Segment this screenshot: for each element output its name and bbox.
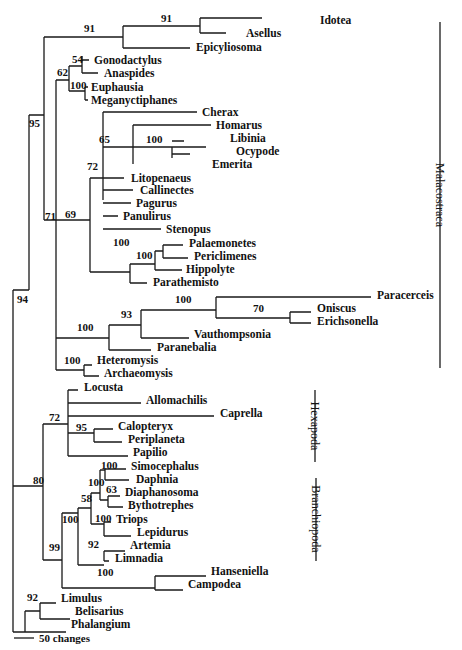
taxon-label: Callinectes bbox=[140, 184, 194, 196]
bootstrap-value: 70 bbox=[253, 302, 265, 314]
taxon-label: Meganyctiphanes bbox=[91, 94, 178, 107]
taxon-label: Lepidurus bbox=[137, 526, 189, 539]
taxon-label: Calopteryx bbox=[118, 420, 173, 433]
taxon-label: Paracerceis bbox=[377, 289, 434, 301]
taxon-labels: IdoteaAsellusEpicyliosomaGonodactylusAna… bbox=[61, 14, 434, 631]
tree-branch bbox=[56, 80, 69, 220]
taxon-label: Periplaneta bbox=[128, 433, 185, 446]
scale-bar: 50 changes bbox=[14, 632, 91, 644]
taxon-label: Diaphanosoma bbox=[125, 486, 199, 499]
bootstrap-value: 100 bbox=[77, 321, 94, 333]
tree-branch bbox=[62, 576, 206, 590]
tree-branch bbox=[13, 115, 29, 290]
bootstrap-value: 100 bbox=[95, 512, 112, 524]
bootstrap-value: 72 bbox=[87, 160, 99, 172]
taxon-label: Asellus bbox=[246, 27, 282, 39]
bootstrap-value: 69 bbox=[65, 208, 77, 220]
bootstrap-value: 100 bbox=[175, 293, 192, 305]
tree-branch bbox=[13, 603, 70, 632]
bootstrap-value: 100 bbox=[113, 236, 130, 248]
taxon-label: Phalangium bbox=[71, 618, 131, 631]
bootstrap-value: 80 bbox=[33, 474, 45, 486]
taxon-label: Periclimenes bbox=[194, 250, 257, 262]
bootstrap-value: 94 bbox=[17, 293, 29, 305]
bootstrap-value: 95 bbox=[29, 117, 41, 129]
bootstrap-value: 100 bbox=[88, 476, 105, 488]
taxon-label: Heteromysis bbox=[97, 354, 159, 367]
bootstrap-value: 100 bbox=[70, 79, 87, 91]
bootstrap-value: 58 bbox=[81, 492, 93, 504]
tree-branch bbox=[44, 115, 56, 220]
clade-label: Branchiopoda bbox=[309, 485, 323, 553]
taxon-label: Libinia bbox=[230, 132, 266, 144]
taxon-label: Limnadia bbox=[115, 552, 163, 564]
bootstrap-value: 100 bbox=[146, 133, 163, 145]
taxon-label: Pagurus bbox=[136, 197, 177, 210]
taxon-label: Anaspides bbox=[104, 67, 155, 80]
bootstrap-value: 71 bbox=[45, 210, 56, 222]
taxon-label: Daphnia bbox=[136, 473, 178, 486]
taxon-label: Parathemisto bbox=[153, 276, 219, 288]
bootstrap-value: 95 bbox=[76, 421, 88, 433]
taxon-label: Bythotrephes bbox=[128, 499, 194, 512]
bootstrap-value: 91 bbox=[161, 12, 172, 24]
taxon-label: Gonodactylus bbox=[94, 54, 162, 67]
taxon-label: Panulirus bbox=[123, 210, 171, 222]
taxon-label: Simocephalus bbox=[131, 460, 199, 473]
tree-branch bbox=[13, 290, 32, 632]
taxon-label: Belisarius bbox=[75, 605, 124, 617]
bootstrap-value: 99 bbox=[49, 541, 61, 553]
taxon-label: Idotea bbox=[320, 14, 352, 26]
taxon-label: Oniscus bbox=[317, 302, 357, 314]
taxon-label: Artemia bbox=[130, 539, 171, 551]
taxon-label: Papilio bbox=[133, 446, 168, 459]
bootstrap-value: 92 bbox=[88, 538, 100, 550]
taxon-label: Emerita bbox=[212, 158, 252, 170]
taxon-label: Stenopus bbox=[166, 223, 211, 236]
bootstrap-value: 63 bbox=[106, 483, 118, 495]
taxon-label: Hippolyte bbox=[186, 263, 235, 276]
taxon-label: Epicyliosoma bbox=[196, 41, 262, 54]
bootstrap-value: 100 bbox=[136, 249, 153, 261]
taxon-label: Hanseniella bbox=[211, 565, 269, 577]
taxon-label: Locusta bbox=[84, 381, 123, 393]
taxon-label: Cherax bbox=[202, 106, 239, 118]
bootstrap-value: 62 bbox=[57, 66, 69, 78]
clade-label: Malacostraca bbox=[433, 163, 447, 228]
bootstrap-value: 91 bbox=[84, 22, 95, 34]
taxon-label: Allomachilis bbox=[146, 394, 208, 406]
bootstrap-value: 92 bbox=[27, 591, 39, 603]
taxon-label: Paranebalia bbox=[157, 341, 217, 353]
bootstrap-value: 100 bbox=[97, 566, 114, 578]
scale-bar-label: 50 changes bbox=[39, 632, 91, 644]
taxon-label: Ocypode bbox=[236, 145, 279, 158]
bootstrap-value: 54 bbox=[72, 53, 84, 65]
bootstrap-value: 65 bbox=[99, 133, 111, 145]
taxon-label: Triops bbox=[116, 513, 148, 526]
phylogenetic-tree: IdoteaAsellusEpicyliosomaGonodactylusAna… bbox=[0, 0, 462, 650]
taxon-label: Euphausia bbox=[91, 81, 144, 94]
bootstrap-value: 100 bbox=[62, 513, 79, 525]
clade-label: Hexapoda bbox=[308, 402, 322, 451]
taxon-label: Campodea bbox=[188, 578, 241, 591]
bootstrap-value: 93 bbox=[121, 308, 133, 320]
taxon-label: Palaemonetes bbox=[189, 237, 257, 249]
bootstrap-value: 100 bbox=[101, 459, 118, 471]
taxon-label: Limulus bbox=[61, 592, 102, 604]
taxon-label: Caprella bbox=[220, 407, 263, 420]
taxon-label: Vauthompsonia bbox=[194, 328, 271, 341]
taxon-label: Homarus bbox=[216, 119, 263, 131]
taxon-label: Erichsonella bbox=[317, 315, 379, 327]
tree-branch bbox=[90, 178, 103, 272]
bootstrap-value: 72 bbox=[49, 411, 61, 423]
taxon-label: Archaeomysis bbox=[104, 367, 173, 380]
tree-branch bbox=[29, 37, 44, 115]
bootstrap-value: 100 bbox=[64, 354, 81, 366]
